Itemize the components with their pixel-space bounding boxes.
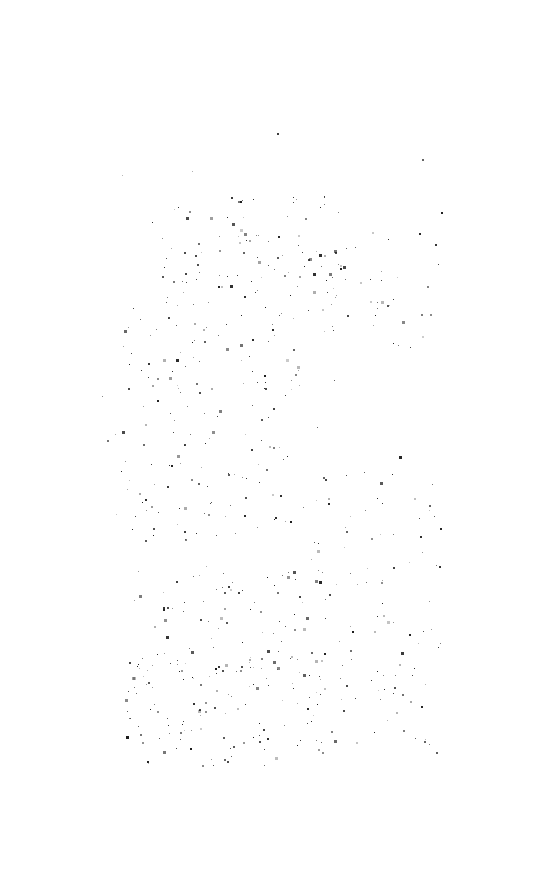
document-text-layer bbox=[0, 0, 544, 885]
document-page bbox=[0, 0, 544, 885]
